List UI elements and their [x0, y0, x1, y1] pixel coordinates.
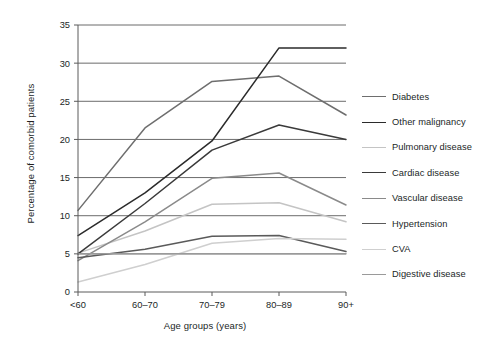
- data-series-group: [78, 48, 346, 282]
- legend-line-swatch: [362, 198, 386, 199]
- legend-line-swatch: [362, 147, 386, 148]
- legend-line-swatch: [362, 96, 386, 97]
- x-tick-label: 70–79: [199, 300, 225, 310]
- legend-line-swatch: [362, 274, 386, 275]
- legend-item-label: Vascular disease: [392, 193, 463, 203]
- y-tick-label: 35: [60, 20, 70, 30]
- y-tick-label: 5: [65, 249, 70, 259]
- x-axis-ticks-group: <6060–7070–7980–8990+: [70, 292, 354, 310]
- legend-item[interactable]: Hypertension: [362, 211, 494, 236]
- y-tick-label: 10: [60, 211, 70, 221]
- line-chart: 05101520253035 <6060–7070–7980–8990+: [0, 0, 360, 348]
- legend-item[interactable]: CVA: [362, 236, 494, 261]
- legend-item-label: Other malignancy: [392, 117, 466, 127]
- legend-item[interactable]: Other malignancy: [362, 109, 494, 134]
- series-line: [78, 48, 346, 236]
- legend-item-label: CVA: [392, 244, 411, 254]
- chart-figure: 05101520253035 <6060–7070–7980–8990+ Per…: [0, 0, 494, 348]
- legend-line-swatch: [362, 172, 386, 173]
- legend-item-label: Diabetes: [392, 92, 429, 102]
- y-tick-label: 20: [60, 135, 70, 145]
- legend-item-label: Digestive disease: [392, 269, 466, 279]
- series-line: [78, 76, 346, 210]
- legend-item-label: Cardiac disease: [392, 168, 459, 178]
- chart-legend: DiabetesOther malignancyPulmonary diseas…: [362, 84, 494, 287]
- series-line: [78, 173, 346, 261]
- series-line: [78, 239, 346, 282]
- x-tick-label: 60–70: [132, 300, 158, 310]
- y-tick-label: 25: [60, 97, 70, 107]
- legend-item[interactable]: Cardiac disease: [362, 160, 494, 185]
- x-tick-label: 80–89: [266, 300, 292, 310]
- y-tick-label: 15: [60, 173, 70, 183]
- plot-area-wrapper: 05101520253035 <6060–7070–7980–8990+ Per…: [0, 0, 360, 348]
- legend-item-label: Pulmonary disease: [392, 142, 472, 152]
- legend-line-swatch: [362, 223, 386, 224]
- legend-item[interactable]: Vascular disease: [362, 186, 494, 211]
- legend-item[interactable]: Pulmonary disease: [362, 135, 494, 160]
- y-tick-label: 30: [60, 59, 70, 69]
- legend-line-swatch: [362, 122, 386, 123]
- x-tick-label: <60: [70, 300, 86, 310]
- gridlines-group: [78, 25, 346, 254]
- legend-item[interactable]: Diabetes: [362, 84, 494, 109]
- y-axis-title: Percentage of comorbid patients: [25, 54, 36, 254]
- x-axis-title: Age groups (years): [60, 320, 350, 331]
- legend-item-label: Hypertension: [392, 219, 447, 229]
- legend-item[interactable]: Digestive disease: [362, 262, 494, 287]
- y-axis-ticks-group: 05101520253035: [60, 20, 78, 297]
- legend-line-swatch: [362, 249, 386, 250]
- x-tick-label: 90+: [338, 300, 354, 310]
- series-line: [78, 125, 346, 254]
- y-tick-label: 0: [65, 287, 70, 297]
